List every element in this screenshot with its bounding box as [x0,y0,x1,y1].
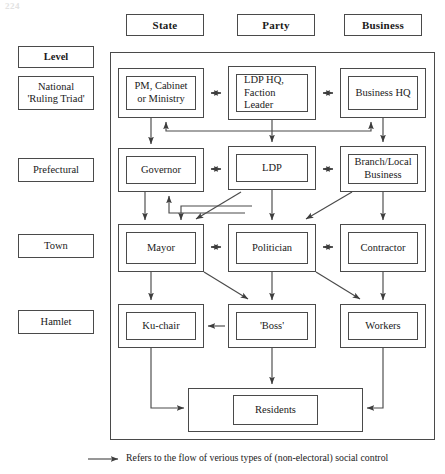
node-governor[interactable]: Governor [118,148,204,192]
column-header-state: State [126,14,204,36]
node-ldp[interactable]: LDP [228,146,316,190]
level-label-town: Town [18,234,94,258]
node-boss[interactable]: 'Boss' [228,304,316,348]
node-workers[interactable]: Workers [340,304,426,348]
node-branch-business[interactable]: Branch/Local Business [340,146,426,192]
node-mayor-label: Mayor [126,232,196,264]
node-business-hq-label: Business HQ [348,76,418,110]
page-folio: 224 [5,1,20,11]
node-politician[interactable]: Politician [228,224,316,272]
node-residents-label: Residents [233,395,318,425]
node-ldp-hq[interactable]: LDP HQ, Faction Leader [228,66,316,120]
diagram-canvas: 224 State Party Business Level National … [0,0,445,474]
node-mayor[interactable]: Mayor [118,224,204,272]
node-residents[interactable]: Residents [188,388,363,432]
column-header-party: Party [237,14,315,36]
node-ku-chair-label: Ku-chair [126,312,196,340]
node-ldp-label: LDP [236,154,308,182]
column-header-business: Business [344,14,422,36]
node-pm-cabinet[interactable]: PM, Cabinet or Ministry [118,68,204,118]
level-label-prefectural: Prefectural [18,158,94,182]
node-contractor[interactable]: Contractor [340,224,426,272]
node-politician-label: Politician [236,232,308,264]
node-branch-business-label: Branch/Local Business [348,154,418,184]
node-workers-label: Workers [348,312,418,340]
node-governor-label: Governor [126,156,196,184]
level-label-national: National 'Ruling Triad' [18,76,94,110]
node-ku-chair[interactable]: Ku-chair [118,304,204,348]
node-business-hq[interactable]: Business HQ [340,68,426,118]
node-pm-cabinet-label: PM, Cabinet or Ministry [126,76,196,110]
node-ldp-hq-label: LDP HQ, Faction Leader [236,74,308,112]
level-header-label: Level [18,46,94,68]
node-contractor-label: Contractor [348,232,418,264]
node-boss-label: 'Boss' [236,312,308,340]
level-label-hamlet: Hamlet [18,310,94,334]
legend-text: Refers to the flow of verious types of (… [126,452,388,463]
